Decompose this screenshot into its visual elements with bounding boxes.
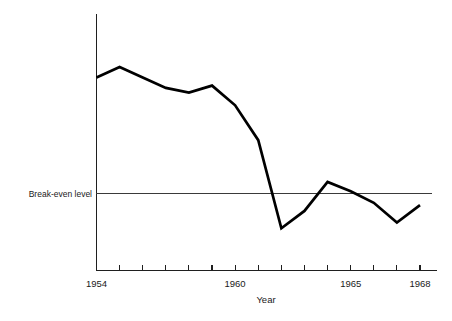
chart-background [0,0,452,321]
line-chart: 1954196019651968 Break-even level Year [0,0,452,321]
x-tick-label-1968: 1968 [409,278,430,289]
x-tick-label-1965: 1965 [340,278,361,289]
x-axis-title: Year [256,294,275,305]
chart-canvas: 1954196019651968 Break-even level Year [0,0,452,321]
break-even-label: Break-even level [29,189,92,199]
x-tick-label-1960: 1960 [225,278,246,289]
x-tick-label-1954: 1954 [86,278,107,289]
